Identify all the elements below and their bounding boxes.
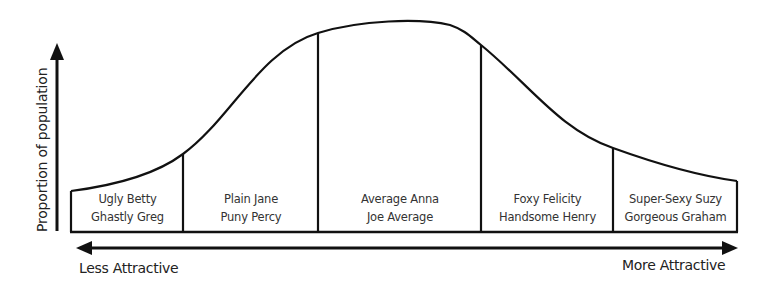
segment-4-line1: Foxy Felicity bbox=[482, 190, 613, 208]
bell-curve-diagram bbox=[0, 0, 767, 293]
segment-4-line2: Handsome Henry bbox=[482, 208, 613, 226]
x-axis-arrow bbox=[76, 241, 738, 255]
segment-label-5: Super-Sexy Suzy Gorgeous Graham bbox=[614, 190, 737, 226]
segment-label-2: Plain Jane Puny Percy bbox=[184, 190, 318, 226]
segment-1-line1: Ugly Betty bbox=[72, 190, 183, 208]
y-axis-arrow bbox=[50, 43, 64, 231]
segment-label-4: Foxy Felicity Handsome Henry bbox=[482, 190, 613, 226]
less-attractive-label: Less Attractive bbox=[79, 260, 178, 276]
segment-label-3: Average Anna Joe Average bbox=[319, 190, 481, 226]
segment-1-line2: Ghastly Greg bbox=[72, 208, 183, 226]
y-axis-label: Proportion of population bbox=[34, 68, 50, 232]
segment-3-line2: Joe Average bbox=[319, 208, 481, 226]
segment-2-line2: Puny Percy bbox=[184, 208, 318, 226]
more-attractive-label: More Attractive bbox=[622, 257, 725, 273]
segment-3-line1: Average Anna bbox=[319, 190, 481, 208]
segment-label-1: Ugly Betty Ghastly Greg bbox=[72, 190, 183, 226]
segment-5-line2: Gorgeous Graham bbox=[614, 208, 737, 226]
segment-2-line1: Plain Jane bbox=[184, 190, 318, 208]
segment-5-line1: Super-Sexy Suzy bbox=[614, 190, 737, 208]
